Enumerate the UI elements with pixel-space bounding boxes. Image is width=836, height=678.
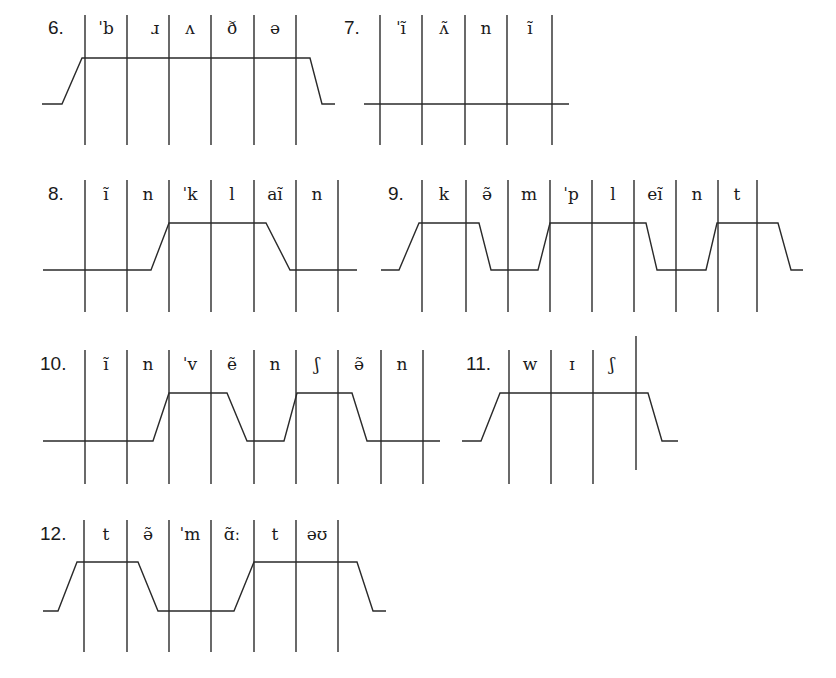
phoneme-label: n [143,184,154,204]
phoneme-label: n [143,354,154,374]
phoneme-label: ˈb [98,18,114,38]
phoneme-label: ĩ [102,354,109,374]
diagram-number: 10. [40,353,66,374]
phoneme-label: ẽ [227,354,237,374]
diagram-number: 9. [388,183,404,204]
diagram-7: 7.ˈĩʌ̃nĩ [344,15,569,145]
phoneme-label: k [439,184,450,204]
pitch-contour [43,562,386,611]
diagram-11: 11.wɪʃ [462,336,678,484]
intonation-diagrams: 6.ˈbɹʌðə7.ˈĩʌ̃nĩ8.ĩnˈklaĩn9.kə̃mˈpleĩnt1… [0,0,836,678]
diagram-number: 12. [40,523,66,544]
diagram-9: 9.kə̃mˈpleĩnt [381,180,803,312]
phoneme-label: aĩ [267,184,283,204]
phoneme-label: n [481,18,492,38]
phoneme-label: n [397,354,408,374]
phoneme-label: ɹ [151,18,160,38]
diagram-6: 6.ˈbɹʌðə [42,15,335,145]
phoneme-label: ə̃ [354,354,364,374]
phoneme-label: l [229,184,234,204]
phoneme-label: t [272,524,279,544]
phoneme-label: ˈm [180,524,201,544]
phoneme-label: ˈk [183,184,199,204]
pitch-contour [43,223,357,270]
phoneme-label: ʃ [313,354,321,374]
phoneme-label: ʌ̃ [438,18,449,38]
phoneme-label: ð [227,18,237,38]
diagram-number: 11. [466,353,491,374]
phoneme-label: n [270,354,281,374]
diagram-8: 8.ĩnˈklaĩn [43,180,357,312]
phoneme-label: w [523,354,538,374]
phoneme-label: m [521,184,537,204]
phoneme-label: ʌ [184,18,195,38]
phoneme-label: ɪ [569,354,575,374]
phoneme-label: ʃ [608,354,616,374]
diagram-number: 7. [344,17,360,38]
phoneme-label: ĩ [102,184,109,204]
phoneme-label: n [312,184,323,204]
phoneme-label: n [692,184,703,204]
phoneme-label: eĩ [647,184,663,204]
diagram-10: 10.ĩnˈvẽnʃə̃n [40,350,440,484]
diagram-12: 12.tə̃ˈmɑ̃ːtəʊ [40,520,386,652]
phoneme-label: t [103,524,110,544]
diagram-number: 8. [48,183,64,204]
phoneme-label: l [610,184,615,204]
phoneme-label: ˈp [563,184,579,204]
pitch-contour [42,58,335,104]
phoneme-label: ə [270,18,280,38]
diagram-number: 6. [48,17,64,38]
phoneme-label: ĩ [526,18,533,38]
phoneme-label: əʊ [307,524,328,544]
phoneme-label: ˈĩ [396,18,407,38]
phoneme-label: t [734,184,741,204]
phoneme-label: ˈv [183,354,198,374]
pitch-contour [462,393,678,441]
phoneme-label: ə̃ [482,184,492,204]
phoneme-label: ə̃ [143,524,153,544]
phoneme-label: ɑ̃ː [224,524,241,544]
